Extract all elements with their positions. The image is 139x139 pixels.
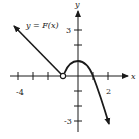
y-tick-label-neg3: -3: [64, 117, 72, 126]
y-tick-label-3: 3: [66, 26, 71, 35]
function-label: y = F(x): [25, 21, 59, 30]
x-axis-label: x: [131, 72, 136, 81]
linear-piece: [14, 26, 61, 74]
y-axis-label: y: [74, 0, 80, 9]
function-graph: y = F(x) y x 3 -3 -4 2: [0, 0, 139, 139]
open-circle-point: [60, 73, 65, 78]
curve-piece: [65, 61, 110, 124]
x-tick-label-2: 2: [106, 87, 111, 96]
x-tick-label-neg4: -4: [16, 88, 24, 97]
